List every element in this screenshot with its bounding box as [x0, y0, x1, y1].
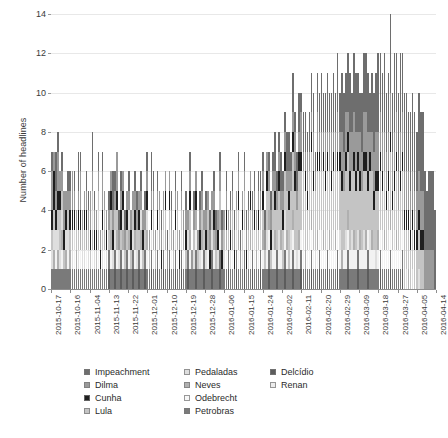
legend-item[interactable]: Odebrecht — [184, 392, 238, 404]
bar-segment — [219, 191, 221, 211]
bar-segment — [238, 152, 240, 172]
bar-segment — [189, 230, 191, 250]
x-tick-mark — [301, 290, 302, 293]
x-tick-label: 2016-01-24 — [266, 295, 275, 335]
legend-item[interactable]: Renan — [270, 379, 314, 391]
bar-segment — [165, 171, 167, 191]
y-tick-label: 2 — [41, 245, 46, 255]
x-tick-label: 2015-12-28 — [208, 295, 217, 335]
bar-segment — [262, 171, 264, 191]
x-tick-label: 2015-11-22 — [131, 295, 140, 334]
bar-segment — [226, 171, 228, 191]
x-tick-mark — [109, 290, 110, 293]
bar-segment — [219, 152, 221, 172]
bar-segment — [74, 191, 76, 211]
bar-segment — [219, 171, 221, 191]
bar-segment — [268, 152, 270, 172]
legend-item[interactable]: Impeachment — [84, 366, 150, 378]
bar-segment — [274, 132, 276, 171]
bar-segment — [189, 171, 191, 191]
bar-segment — [294, 112, 296, 132]
bar-segment — [201, 191, 203, 211]
bar-segment — [165, 210, 167, 230]
bar-segment — [268, 171, 270, 191]
x-tick-label: 2015-11-04 — [93, 295, 102, 334]
bar-segment — [171, 210, 173, 230]
x-tick-mark — [359, 290, 360, 293]
x-tick-mark — [51, 290, 52, 293]
bar-segment — [390, 14, 392, 93]
legend-item[interactable]: Cunha — [84, 392, 150, 404]
x-tick-mark — [90, 290, 91, 293]
x-tick-mark — [398, 290, 399, 293]
bars-container — [51, 14, 436, 289]
bar-segment — [104, 191, 106, 211]
x-tick-mark — [321, 290, 322, 293]
y-tick-label: 8 — [41, 127, 46, 137]
y-tick-label: 10 — [36, 88, 46, 98]
legend-item[interactable]: Pedaladas — [184, 366, 238, 378]
bar-segment — [195, 210, 197, 230]
bar-segment — [153, 191, 155, 211]
bar-segment — [80, 152, 82, 172]
bar-segment — [250, 171, 252, 191]
bar-segment — [244, 152, 246, 172]
legend-item[interactable]: Lula — [84, 405, 150, 417]
legend-label: Cunha — [95, 393, 122, 403]
x-tick-label: 2016-02-29 — [343, 295, 352, 335]
chart-legend: ImpeachmentDilmaCunhaLulaPedaladasNevesO… — [84, 366, 384, 420]
legend-item[interactable]: Delcídio — [270, 366, 314, 378]
bar-segment — [177, 210, 179, 230]
y-tick-label: 14 — [36, 9, 46, 19]
x-tick-label: 2016-01-06 — [227, 295, 236, 335]
bar-segment — [159, 191, 161, 211]
legend-label: Lula — [95, 406, 112, 416]
bar-segment — [146, 191, 148, 211]
bar-segment — [313, 93, 315, 132]
legend-swatch-icon — [184, 408, 190, 414]
legend-label: Delcídio — [281, 367, 314, 377]
legend-label: Neves — [195, 380, 221, 390]
bar-segment — [181, 171, 183, 191]
legend-item[interactable]: Dilma — [84, 379, 150, 391]
bar-segment — [195, 171, 197, 191]
bar-segment — [122, 171, 124, 191]
legend-column: PedaladasNevesOdebrechtPetrobras — [184, 366, 238, 418]
legend-swatch-icon — [84, 382, 90, 388]
bar-segment — [153, 210, 155, 230]
bar-segment — [262, 191, 264, 211]
bar — [434, 210, 436, 289]
bar-segment — [86, 171, 88, 191]
x-tick-mark — [436, 290, 437, 293]
x-tick-mark — [417, 290, 418, 293]
legend-swatch-icon — [270, 369, 276, 375]
bar-segment — [207, 191, 209, 211]
x-tick-mark — [282, 290, 283, 293]
bar-segment — [146, 152, 148, 172]
legend-swatch-icon — [84, 369, 90, 375]
bar-segment — [134, 171, 136, 191]
bar-segment — [177, 191, 179, 211]
bar-segment — [61, 152, 63, 172]
x-tick-label: 2016-01-15 — [247, 295, 256, 335]
bar-segment — [189, 210, 191, 230]
legend-column: ImpeachmentDilmaCunhaLula — [84, 366, 150, 418]
legend-item[interactable]: Neves — [184, 379, 238, 391]
x-tick-mark — [205, 290, 206, 293]
x-tick-mark — [128, 290, 129, 293]
x-tick-mark — [340, 290, 341, 293]
x-tick-mark — [224, 290, 225, 293]
bar-segment — [238, 191, 240, 211]
bar-segment — [122, 191, 124, 211]
legend-swatch-icon — [184, 395, 190, 401]
bar-segment — [128, 171, 130, 191]
bar-segment — [116, 152, 118, 191]
bar-segment — [169, 171, 171, 191]
bar-segment — [92, 171, 94, 191]
legend-column: DelcídioRenan — [270, 366, 314, 392]
legend-item[interactable]: Petrobras — [184, 405, 238, 417]
bar-segment — [232, 191, 234, 211]
x-tick-label: 2016-04-14 — [439, 295, 448, 335]
legend-label: Odebrecht — [195, 393, 237, 403]
legend-swatch-icon — [270, 382, 276, 388]
